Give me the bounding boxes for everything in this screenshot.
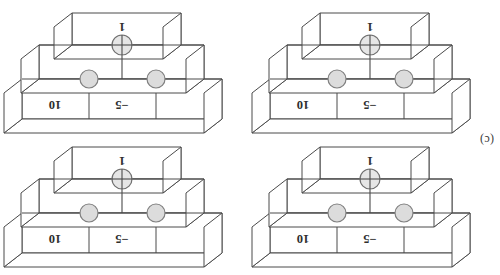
- control-dot-icon[interactable]: [80, 70, 98, 88]
- slab-upper-top: [4, 253, 222, 267]
- figure-sheet: −5 10 1: [0, 0, 500, 275]
- slab-middle-top: [21, 213, 204, 227]
- weight-label-bottom: 1: [119, 154, 125, 168]
- slab-upper-top: [252, 119, 470, 133]
- control-dot-icon[interactable]: [147, 70, 165, 88]
- weight-label-bottom: 1: [367, 20, 373, 34]
- slab-middle-top: [21, 79, 204, 93]
- control-dot-icon[interactable]: [147, 204, 165, 222]
- figure-caption-label: (c): [480, 132, 494, 147]
- control-dot-icon[interactable]: [80, 204, 98, 222]
- target-plus-icon[interactable]: [360, 35, 380, 55]
- weight-label-right: 10: [297, 232, 310, 246]
- diagram-panel: −5 10 1: [242, 133, 492, 271]
- weight-label-top: −5: [115, 232, 128, 246]
- weight-label-bottom: 1: [367, 154, 373, 168]
- slab-middle-top: [269, 213, 452, 227]
- control-dot-icon[interactable]: [328, 204, 346, 222]
- slab-upper-top: [252, 253, 470, 267]
- weight-label-right: 10: [49, 98, 62, 112]
- page-rotation-wrapper: −5 10 1: [0, 0, 500, 275]
- weight-label-top: −5: [115, 98, 128, 112]
- target-plus-icon[interactable]: [360, 169, 380, 189]
- control-dot-icon[interactable]: [395, 70, 413, 88]
- target-plus-icon[interactable]: [112, 169, 132, 189]
- weight-label-bottom: 1: [119, 20, 125, 34]
- control-dot-icon[interactable]: [328, 70, 346, 88]
- weight-label-right: 10: [49, 232, 62, 246]
- diagram-panel: −5 10 1: [0, 133, 244, 271]
- slab-upper-top: [4, 119, 222, 133]
- weight-label-top: −5: [363, 232, 376, 246]
- weight-label-right: 10: [297, 98, 310, 112]
- target-plus-icon[interactable]: [112, 35, 132, 55]
- weight-label-top: −5: [363, 98, 376, 112]
- slab-middle-top: [269, 79, 452, 93]
- diagram-panel: −5 10 1: [242, 0, 492, 137]
- control-dot-icon[interactable]: [395, 204, 413, 222]
- diagram-panel: −5 10 1: [0, 0, 244, 137]
